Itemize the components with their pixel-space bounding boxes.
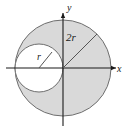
figure-canvas: y x 2r r: [0, 0, 126, 133]
x-axis-label: x: [116, 63, 122, 74]
outer-radius-label: 2r: [66, 31, 77, 43]
x-axis-arrow-icon: [111, 66, 116, 70]
y-axis-arrow-icon: [61, 13, 65, 18]
inner-radius-label: r: [37, 51, 41, 62]
y-axis-label: y: [66, 2, 72, 13]
circle-geometry-figure: y x 2r r: [0, 0, 126, 133]
